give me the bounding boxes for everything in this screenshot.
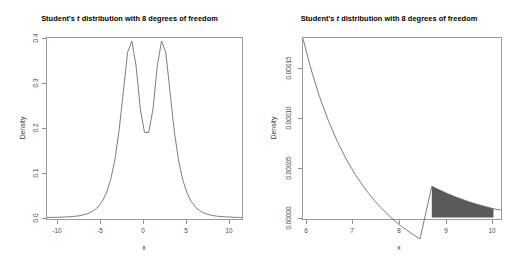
ytick-label: 0.00000 [285,206,292,229]
xtick-mark [446,220,447,224]
panel-right-title: Student's t distribution with 8 degrees … [259,14,519,23]
ytick-label: 0.00015 [285,56,292,79]
xaxis-title: x [397,244,400,251]
ytick-label: 0.1 [32,169,39,178]
title-prefix: Student's [41,14,77,23]
xtick-label: -10 [52,227,61,234]
xtick-label: -5 [97,227,103,234]
panel-left-title: Student's t distribution with 8 degrees … [0,14,259,23]
density-tail-curve-right [303,38,501,219]
ytick-label: 0.4 [32,34,39,43]
yaxis-title: Density [270,117,277,140]
xtick-mark [399,220,400,224]
xtick-mark [143,220,144,224]
ytick-label: 0.2 [32,124,39,133]
xtick-label: 0 [141,227,145,234]
xtick-mark [100,220,101,224]
density-curve-left [47,38,242,219]
yaxis-title: Density [19,117,26,140]
xtick-mark [229,220,230,224]
ytick-mark [42,128,46,129]
xtick-label: 10 [225,227,232,234]
ytick-mark [298,218,302,219]
ytick-mark [42,83,46,84]
ytick-mark [42,173,46,174]
title-prefix: Student's [301,14,337,23]
xtick-mark [352,220,353,224]
ytick-mark [298,168,302,169]
xtick-label: 8 [397,227,401,234]
xtick-label: 5 [184,227,188,234]
t-density-polyline-left [47,41,242,217]
figure-canvas: Student's t distribution with 8 degrees … [0,0,519,274]
ytick-label: 0.3 [32,79,39,88]
title-suffix: distribution with 8 degrees of freedom [339,14,477,23]
ytick-label: 0.00005 [285,156,292,179]
plot-area-left [46,37,243,220]
plot-area-right [302,37,502,220]
ytick-mark [42,38,46,39]
ytick-label: 0.0 [32,214,39,223]
plot-panel-right: Student's t distribution with 8 degrees … [259,0,519,274]
xtick-mark [186,220,187,224]
plot-panel-left: Student's t distribution with 8 degrees … [0,0,259,274]
xtick-label: 7 [350,227,354,234]
title-suffix: distribution with 8 degrees of freedom [80,14,218,23]
xtick-label: 6 [304,227,308,234]
xtick-mark [492,220,493,224]
ytick-mark [42,218,46,219]
xtick-mark [306,220,307,224]
xtick-mark [57,220,58,224]
xaxis-title: x [142,244,145,251]
xtick-label: 9 [444,227,448,234]
xtick-label: 10 [488,227,495,234]
ytick-mark [298,118,302,119]
ytick-label: 0.00010 [285,106,292,129]
ytick-mark [298,68,302,69]
